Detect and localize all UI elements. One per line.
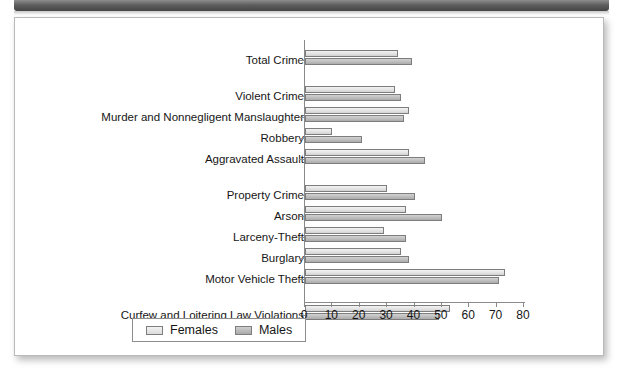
x-axis-tick <box>468 302 469 307</box>
bar-females <box>305 86 395 93</box>
category-label: Robbery <box>261 129 304 147</box>
x-axis-tick <box>331 302 332 307</box>
chart-legend: Females Males <box>132 318 306 342</box>
x-axis-tick <box>386 302 387 307</box>
females-swatch-icon <box>146 326 163 335</box>
bar-females <box>305 185 387 192</box>
x-axis-tick-label: 30 <box>371 308 401 322</box>
x-axis-tick-label: 20 <box>344 308 374 322</box>
chart-row: Robbery <box>15 127 603 149</box>
x-axis-tick <box>441 302 442 307</box>
legend-item-females: Females <box>146 323 218 337</box>
bar-females <box>305 227 384 234</box>
bar-males <box>305 94 401 101</box>
x-axis-tick-label: 60 <box>453 308 483 322</box>
bar-females <box>305 50 398 57</box>
bar-males <box>305 235 406 242</box>
chart-row: Murder and Nonnegligent Manslaughter <box>15 106 603 128</box>
males-swatch-icon <box>235 326 252 335</box>
x-axis-tick <box>304 302 305 307</box>
bar-females <box>305 206 406 213</box>
chart-row: Aggravated Assault <box>15 148 603 170</box>
bar-males <box>305 277 499 284</box>
x-axis-tick <box>523 302 524 307</box>
chart-row: Larceny-Theft <box>15 226 603 248</box>
x-axis-tick-label: 10 <box>316 308 346 322</box>
bar-males <box>305 256 409 263</box>
category-label: Murder and Nonnegligent Manslaughter <box>101 108 304 126</box>
bar-males <box>305 193 415 200</box>
bar-males <box>305 157 425 164</box>
chart-row: Burglary <box>15 247 603 269</box>
chart-row: Property Crime <box>15 184 603 206</box>
bar-females <box>305 128 332 135</box>
legend-item-males: Males <box>235 323 292 337</box>
legend-label-females: Females <box>170 323 218 337</box>
bar-males <box>305 58 412 65</box>
bar-females <box>305 107 409 114</box>
chart-row: Motor Vehicle Theft <box>15 268 603 290</box>
scan-top-dark-band <box>14 0 609 11</box>
bar-chart: Total CrimeViolent CrimeMurder and Nonne… <box>15 18 603 355</box>
x-axis-tick <box>414 302 415 307</box>
scan-band-shadow <box>14 11 609 15</box>
bar-females <box>305 149 409 156</box>
x-axis-tick-label: 70 <box>481 308 511 322</box>
category-label: Total Crime <box>246 51 304 69</box>
bar-males <box>305 136 362 143</box>
x-axis-tick-label: 80 <box>508 308 538 322</box>
category-label: Property Crime <box>227 186 304 204</box>
chart-row: Violent Crime <box>15 85 603 107</box>
category-label: Burglary <box>261 249 304 267</box>
bar-females <box>305 248 401 255</box>
figure-card: Total CrimeViolent CrimeMurder and Nonne… <box>14 17 604 356</box>
x-axis-line <box>304 302 525 303</box>
legend-label-males: Males <box>259 323 292 337</box>
x-axis-tick-label: 40 <box>399 308 429 322</box>
x-axis-tick <box>359 302 360 307</box>
category-label: Violent Crime <box>235 87 304 105</box>
category-label: Motor Vehicle Theft <box>205 270 304 288</box>
bar-females <box>305 269 505 276</box>
x-axis-tick <box>496 302 497 307</box>
bar-males <box>305 115 404 122</box>
chart-row: Total Crime <box>15 49 603 71</box>
x-axis-tick-label: 50 <box>426 308 456 322</box>
category-label: Larceny-Theft <box>233 228 304 246</box>
bar-males <box>305 214 442 221</box>
category-label: Aggravated Assault <box>205 150 304 168</box>
chart-row: Arson <box>15 205 603 227</box>
